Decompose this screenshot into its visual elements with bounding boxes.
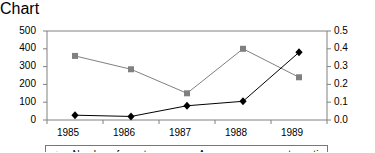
diamond-marker-icon (44, 150, 70, 153)
legend-item-average-government-reaction: Average government reaction (169, 150, 329, 153)
square-data-point (240, 46, 246, 52)
chart-legend: Number of events Average government reac… (45, 145, 328, 152)
x-axis-ticks (47, 120, 327, 124)
legend-label: Number of events (73, 150, 152, 153)
square-data-point (72, 53, 78, 59)
chart-container: 0 100 200 300 400 500 0.0 0.1 0.2 0.3 0.… (0, 18, 375, 152)
y-axis-left-ticks (43, 31, 47, 120)
legend-label: Average government reaction (198, 150, 329, 153)
square-data-point (184, 90, 190, 96)
diamond-data-point (71, 111, 78, 119)
square-marker-icon (169, 150, 195, 153)
diamond-data-point (127, 112, 134, 120)
square-data-point (128, 66, 134, 72)
series-average-government-reaction (72, 46, 302, 97)
legend-item-number-of-events: Number of events (44, 150, 152, 153)
square-data-point (296, 74, 302, 80)
y-axis-right-ticks (327, 31, 331, 120)
plot-area (0, 18, 375, 152)
diamond-data-point (183, 102, 190, 110)
series-number-of-events (71, 48, 302, 120)
